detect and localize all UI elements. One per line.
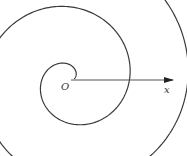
origin-label: O (61, 81, 69, 92)
x-axis-label: x (164, 84, 170, 95)
spiral-curve (0, 0, 187, 156)
spiral-diagram: O x (0, 0, 187, 156)
